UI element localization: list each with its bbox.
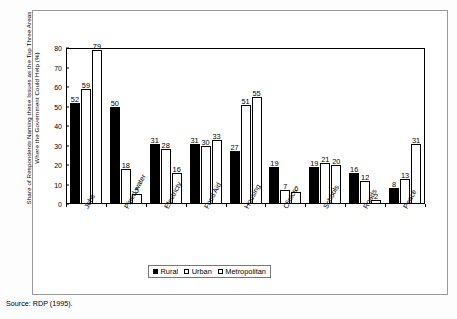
y-axis-title-line-1: Share of Respondents Naming these Issues… <box>25 8 33 208</box>
bar-value-label: 31 <box>412 136 420 145</box>
y-axis-tick-label: 40 <box>54 123 62 130</box>
bar-value-label: 28 <box>162 141 170 150</box>
bar-value-label: 33 <box>212 132 220 141</box>
bar-value-label: 31 <box>190 136 198 145</box>
bar-group: 81331 <box>385 48 425 204</box>
bar-rural-roads: 16 <box>349 173 359 204</box>
bar-urban-housing: 51 <box>241 105 251 204</box>
x-axis-tick-mark <box>425 204 426 207</box>
bar-value-label: 20 <box>332 157 340 166</box>
bar-value-label: 50 <box>111 99 119 108</box>
bar-rural-clinics: 19 <box>269 167 279 204</box>
bar-value-label: 16 <box>350 165 358 174</box>
bar-value-label: 59 <box>82 81 90 90</box>
y-axis-tick-label: 0 <box>58 201 62 208</box>
legend-swatch-icon <box>153 269 158 274</box>
bar-value-label: 51 <box>241 97 249 106</box>
chart-legend: RuralUrbanMetropolitan <box>148 265 271 278</box>
y-axis-title: Share of Respondents Naming these Issues… <box>25 8 49 208</box>
bar-value-label: 12 <box>361 173 369 182</box>
bar-rural-food-aid: 31 <box>190 144 200 204</box>
bar-value-label: 79 <box>93 42 101 51</box>
legend-label: Urban <box>192 267 212 276</box>
bar-value-label: 19 <box>270 159 278 168</box>
bar-value-label: 16 <box>173 165 181 174</box>
bar-value-label: 7 <box>283 182 287 191</box>
y-axis-tick-label: 80 <box>54 45 62 52</box>
bar-value-label: 13 <box>401 171 409 180</box>
bar-group: 16122 <box>345 48 385 204</box>
bar-rural-jobs: 52 <box>70 103 80 204</box>
bar-value-label: 21 <box>321 155 329 164</box>
bar-group: 312816 <box>146 48 186 204</box>
legend-swatch-icon <box>184 269 189 274</box>
legend-label: Metropolitan <box>225 267 266 276</box>
bar-value-label: 52 <box>71 95 79 104</box>
legend-item-rural[interactable]: Rural <box>153 267 178 276</box>
y-axis-tick-label: 60 <box>54 84 62 91</box>
bar-urban-jobs: 59 <box>81 89 91 204</box>
bar-value-label: 30 <box>201 138 209 147</box>
bar-rural-schools: 19 <box>309 167 319 204</box>
y-axis-title-line-2: Where the Government Could Help (%) <box>33 8 41 208</box>
bar-value-label: 8 <box>392 180 396 189</box>
bar-rural-piped-water: 50 <box>110 107 120 205</box>
bar-value-label: 18 <box>122 161 130 170</box>
legend-swatch-icon <box>218 269 223 274</box>
legend-item-metropolitan[interactable]: Metropolitan <box>218 267 266 276</box>
source-note: Source: RDP (1995). <box>6 299 73 308</box>
y-axis-tick-label: 30 <box>54 142 62 149</box>
bar-value-label: 55 <box>252 89 260 98</box>
legend-label: Rural <box>161 267 179 276</box>
y-axis-tick-label: 70 <box>54 64 62 71</box>
bar-group: 192120 <box>305 48 345 204</box>
y-axis-tick-label: 50 <box>54 103 62 110</box>
bar-groups: 5259795018531281631303327515519761921201… <box>66 48 425 204</box>
plot-area: 01020304050607080 5259795018531281631303… <box>66 48 425 204</box>
bar-metropolitan-jobs: 79 <box>92 50 102 204</box>
bar-group: 1976 <box>265 48 305 204</box>
bar-rural-peace: 8 <box>389 188 399 204</box>
bar-rural-electricty: 31 <box>150 144 160 204</box>
y-axis-tick-label: 10 <box>54 181 62 188</box>
bar-value-label: 27 <box>230 143 238 152</box>
y-axis-tick-label: 20 <box>54 162 62 169</box>
bar-value-label: 19 <box>310 159 318 168</box>
x-axis-category-labels: JobsPiped waterElectrictyFood AidHousing… <box>66 206 425 258</box>
bar-group: 275155 <box>226 48 266 204</box>
bar-value-label: 31 <box>151 136 159 145</box>
bar-rural-housing: 27 <box>230 151 240 204</box>
figure-container: Share of Respondents Naming these Issues… <box>0 0 457 319</box>
legend-item-urban[interactable]: Urban <box>184 267 212 276</box>
bar-group: 525979 <box>66 48 106 204</box>
bar-group: 313033 <box>186 48 226 204</box>
